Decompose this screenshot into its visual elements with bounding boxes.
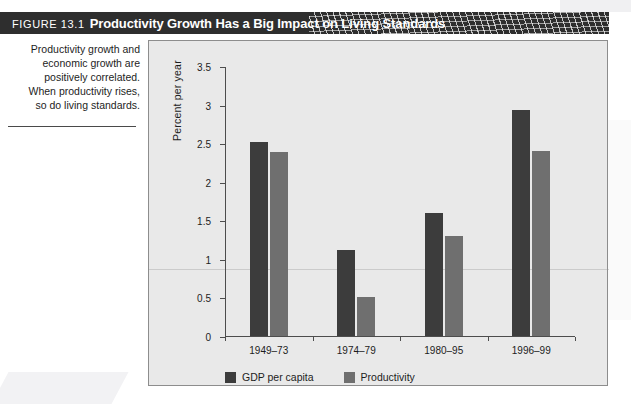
y-axis-tick-label: 0.5 — [197, 293, 211, 304]
y-axis-line — [225, 67, 226, 337]
figure-caption: Productivity growth and economic growth … — [8, 42, 140, 112]
y-axis-title: Percent per year — [171, 60, 183, 141]
legend-label: GDP per capita — [242, 371, 314, 383]
chart-panel: Percent per year 00.511.522.533.5 1949–7… — [148, 40, 608, 386]
y-axis-tick: 3.5 — [220, 67, 225, 68]
y-axis-tick-label: 0 — [205, 332, 211, 343]
chart-legend: GDP per capitaProductivity — [225, 371, 415, 383]
x-axis-tick — [575, 337, 576, 341]
figure-title-bar: FIGURE 13.1Productivity Growth Has a Big… — [0, 12, 609, 34]
x-axis-tick-label: 1949–73 — [249, 345, 288, 356]
y-axis-tick-label: 2.5 — [197, 139, 211, 150]
bar-gdp-per-capita-1974-79 — [337, 250, 355, 336]
x-axis-tick-label: 1980–95 — [424, 345, 463, 356]
legend-item-productivity: Productivity — [344, 371, 415, 383]
figure-number: FIGURE 13.1 — [12, 18, 85, 30]
figure-heading: FIGURE 13.1Productivity Growth Has a Big… — [12, 12, 445, 34]
legend-item-gdp-per-capita: GDP per capita — [225, 371, 314, 383]
y-axis-tick-label: 3.5 — [197, 62, 211, 73]
bar-gdp-per-capita-1996-99 — [512, 110, 530, 336]
y-axis-tick-label: 3 — [205, 100, 211, 111]
x-axis-tick-label: 1974–79 — [337, 345, 376, 356]
y-axis-tick-label: 1.5 — [197, 216, 211, 227]
bar-productivity-1996-99 — [532, 151, 550, 336]
y-axis-tick-label: 1 — [205, 254, 211, 265]
bar-productivity-1974-79 — [357, 297, 375, 336]
x-axis-tick — [313, 337, 314, 341]
x-axis-tick — [488, 337, 489, 341]
legend-label: Productivity — [361, 371, 415, 383]
scan-artifact-right-band — [608, 120, 631, 320]
y-axis-tick: 1.5 — [220, 221, 225, 222]
y-axis-tick: 0.5 — [220, 298, 225, 299]
legend-swatch-icon — [344, 372, 355, 383]
bar-gdp-per-capita-1980-95 — [425, 213, 443, 336]
figure-caption-column: Productivity growth and economic growth … — [8, 42, 140, 127]
y-axis-tick-label: 2 — [205, 177, 211, 188]
x-axis-tick — [400, 337, 401, 341]
bar-productivity-1980-95 — [445, 236, 463, 336]
page-title: Productivity Growth Has a Big Impact on … — [90, 16, 446, 31]
bar-gdp-per-capita-1949-73 — [250, 142, 268, 336]
x-axis-tick-label: 1996–99 — [512, 345, 551, 356]
legend-swatch-icon — [225, 372, 236, 383]
bar-productivity-1949-73 — [270, 152, 288, 336]
scan-artifact-top-right — [560, 0, 631, 12]
y-axis-tick: 2.5 — [220, 144, 225, 145]
caption-divider — [8, 126, 136, 127]
x-axis-tick — [225, 337, 226, 341]
y-axis-tick: 3 — [220, 106, 225, 107]
y-axis-tick: 2 — [220, 183, 225, 184]
y-axis-tick: 1 — [220, 260, 225, 261]
figure-container: FIGURE 13.1Productivity Growth Has a Big… — [0, 12, 609, 387]
plot-area: 00.511.522.533.5 1949–731974–791980–9519… — [225, 67, 575, 337]
scan-artifact-bottom-left — [0, 388, 631, 404]
